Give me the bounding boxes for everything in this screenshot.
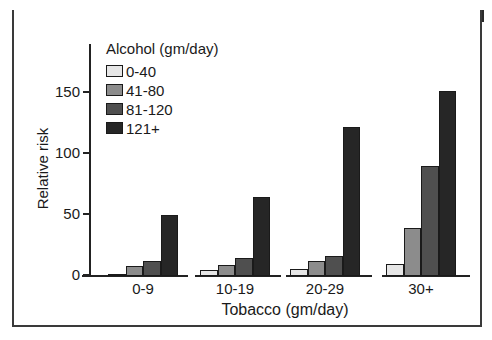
legend-label: 81-120 [126,101,173,118]
bar-10-19-41-80 [218,265,236,276]
legend-swatch [106,65,123,77]
bar-0-9-0-40 [108,274,126,276]
bar-30+-0-40 [386,264,404,276]
x-category-label: 30+ [381,280,461,297]
y-axis [89,44,91,276]
legend-label: 121+ [126,120,160,137]
y-tick [83,213,90,215]
y-tick [83,152,90,154]
y-tick [83,91,90,93]
bar-0-9-81-120 [143,261,161,276]
legend-label: 0-40 [126,63,156,80]
bar-10-19-0-40 [200,270,218,276]
bar-20-29-0-40 [290,269,308,276]
y-tick-label: 0 [40,266,80,283]
legend-item: 41-80 [106,81,164,99]
bar-30+-81-120 [421,166,439,276]
legend-item: 121+ [106,119,160,137]
bar-0-9-121+ [161,215,179,276]
legend-item: 81-120 [106,100,173,118]
bar-20-29-121+ [343,127,361,276]
x-category-label: 10-19 [195,280,275,297]
bar-10-19-81-120 [235,258,253,276]
x-category-label: 20-29 [285,280,365,297]
x-category-label: 0-9 [103,280,183,297]
x-axis-label: Tobacco (gm/day) [200,301,370,319]
y-axis-label: Relative risk [34,109,51,229]
legend-swatch [106,84,123,96]
legend-swatch [106,122,123,134]
bar-30+-41-80 [404,228,422,276]
legend-item: 0-40 [106,62,156,80]
bar-0-9-41-80 [126,266,144,276]
bar-20-29-41-80 [308,261,326,276]
legend-title: Alcohol (gm/day) [106,40,219,57]
bar-30+-121+ [439,91,457,276]
bar-10-19-121+ [253,197,271,276]
bar-20-29-81-120 [325,256,343,276]
y-tick-label: 150 [40,83,80,100]
legend-swatch [106,103,123,115]
legend-label: 41-80 [126,82,164,99]
